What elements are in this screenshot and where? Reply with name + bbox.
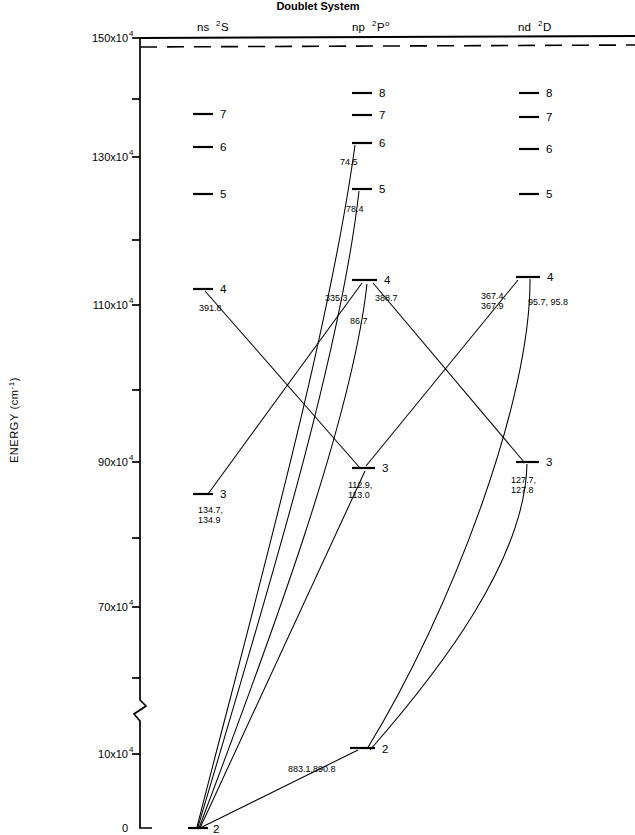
transition-line-np4-ns3 — [208, 283, 362, 494]
wavelength-label-np4-a: 335.3 — [325, 293, 348, 303]
level-ns-7[interactable]: 7 — [193, 108, 226, 120]
y-axis-title-tail: ) — [8, 377, 20, 381]
y-tick-exponent: 4 — [129, 148, 134, 157]
level-n-label: 6 — [546, 143, 552, 155]
level-nd-6[interactable]: 6 — [519, 143, 552, 155]
y-tick-exponent: 4 — [129, 598, 134, 607]
wavelength-label-np4-c: 388.7 — [375, 293, 398, 303]
y-axis-title: ENERGY (cm-1) — [7, 377, 20, 463]
level-ns-2[interactable]: 2 — [188, 823, 219, 835]
level-n-label: 5 — [220, 188, 226, 200]
level-np-2[interactable]: 2 883.1,890.8 — [288, 743, 388, 774]
level-n-label: 8 — [546, 87, 552, 99]
y-tick-text: 150x10 — [92, 32, 128, 44]
transition-line-nd3-np2 — [370, 464, 527, 750]
transition-line-np3-ns2 — [200, 471, 365, 828]
level-n-label: 6 — [379, 137, 385, 149]
column-header-np-term-sup: o — [385, 19, 390, 28]
y-axis-tick-label-130: 130x10 4 — [92, 148, 134, 163]
level-group-ns: 7 6 5 4 391.8 3 134.7, 134.9 — [188, 108, 227, 835]
level-n-label: 4 — [384, 274, 391, 286]
level-n-label: 4 — [547, 271, 554, 283]
wavelength-label-nd4-c: 95.7, 95.8 — [528, 297, 568, 307]
level-n-label: 3 — [546, 456, 552, 468]
wavelength-label-np2: 883.1,890.8 — [288, 764, 336, 774]
transition-line-nd4-np2 — [367, 279, 530, 749]
y-axis-tick-label-0: 0 — [122, 822, 128, 834]
column-header-ns-prefix: ns — [197, 21, 209, 33]
level-ns-4[interactable]: 4 391.8 — [193, 283, 227, 313]
level-n-label: 4 — [220, 283, 227, 295]
wavelength-label-np5: 78.4 — [346, 204, 364, 214]
column-header-ns: ns 2 S — [197, 19, 229, 33]
level-np-6[interactable]: 6 74.5 — [340, 137, 385, 167]
y-tick-text: 130x10 — [92, 151, 128, 163]
level-nd-4[interactable]: 4 367.4, 367.9 95.7, 95.8 — [481, 271, 568, 311]
level-np-5[interactable]: 5 78.4 — [346, 183, 385, 214]
level-ns-5[interactable]: 5 — [193, 188, 226, 200]
level-n-label: 7 — [220, 108, 226, 120]
y-axis-tick-label-10: 10x10 4 — [98, 745, 134, 760]
level-nd-3[interactable]: 3 127.7, 127.8 — [511, 456, 552, 495]
wavelength-label-ns3-a: 134.7, — [198, 505, 223, 515]
level-n-label: 6 — [220, 141, 226, 153]
transition-line-np4-ns2 — [199, 284, 367, 828]
wavelength-label-nd4-a: 367.4, — [481, 291, 506, 301]
wavelength-label-nd3-a: 127.7, — [511, 475, 536, 485]
level-ns-6[interactable]: 6 — [193, 141, 226, 153]
level-group-nd: 8 7 6 5 4 367.4, 367.9 95.7, 95.8 — [481, 87, 568, 495]
y-tick-text: 90x10 — [98, 456, 128, 468]
y-axis-tick-label-150: 150x10 4 — [92, 29, 134, 44]
level-np-7[interactable]: 7 — [352, 109, 385, 121]
level-n-label: 3 — [382, 462, 388, 474]
wavelength-label-np3-b: 113.0 — [348, 490, 370, 500]
level-n-label: 3 — [220, 488, 226, 500]
transition-line-np2-ns2 — [198, 750, 358, 829]
y-axis-tick-label-110: 110x10 4 — [93, 296, 134, 311]
level-n-label: 2 — [382, 743, 388, 755]
column-header-nd-term: D — [543, 21, 551, 33]
ionization-limit-solid-line — [140, 36, 635, 38]
y-tick-exponent: 4 — [129, 745, 134, 754]
level-n-label: 2 — [213, 823, 219, 835]
grotrian-diagram-canvas: Doublet System ns 2 S np 2 P o nd 2 D — [0, 0, 635, 835]
column-header-np-term: P — [377, 21, 385, 33]
level-n-label: 5 — [379, 183, 385, 195]
y-tick-exponent: 4 — [129, 296, 134, 305]
level-ns-3[interactable]: 3 134.7, 134.9 — [193, 488, 226, 525]
column-headers: ns 2 S np 2 P o nd 2 D — [197, 19, 551, 33]
y-tick-text: 110x10 — [93, 299, 128, 311]
level-np-8[interactable]: 8 — [352, 87, 385, 99]
svg-text:ENERGY (cm-1): ENERGY (cm-1) — [7, 377, 20, 463]
column-header-nd-prefix: nd — [518, 21, 531, 33]
level-n-label: 5 — [546, 188, 552, 200]
ionization-limit-dashed-line — [140, 45, 635, 47]
column-header-np: np 2 P o — [352, 19, 390, 33]
y-axis-tick-label-70: 70x10 4 — [98, 598, 134, 613]
y-axis-title-exponent: -1 — [7, 381, 16, 389]
y-axis-title-main: ENERGY (cm — [8, 389, 20, 463]
y-axis: 150x10 4 130x10 4 110x10 4 90x10 4 70x10… — [7, 29, 152, 834]
energy-level-diagram: Doublet System ns 2 S np 2 P o nd 2 D — [0, 0, 635, 835]
column-header-ns-term: S — [221, 21, 229, 33]
wavelength-label-ns3-b: 134.9 — [198, 515, 221, 525]
level-nd-7[interactable]: 7 — [519, 111, 552, 123]
level-n-label: 7 — [379, 109, 385, 121]
wavelength-label-ns4: 391.8 — [199, 303, 222, 313]
transition-line-np6-ns2 — [197, 145, 355, 827]
level-np-3[interactable]: 3 112.9, 113.0 — [348, 462, 388, 500]
wavelength-label-np6: 74.5 — [340, 157, 358, 167]
wavelength-label-np3-a: 112.9, — [348, 480, 372, 490]
level-nd-8[interactable]: 8 — [519, 87, 552, 99]
y-tick-exponent: 4 — [129, 29, 134, 38]
column-header-np-prefix: np — [352, 21, 365, 33]
wavelength-label-nd3-b: 127.8 — [511, 485, 534, 495]
y-tick-exponent: 4 — [129, 453, 134, 462]
level-n-label: 7 — [546, 111, 552, 123]
y-axis-tick-label-90: 90x10 4 — [98, 453, 134, 468]
wavelength-label-nd4-b: 367.9 — [481, 301, 504, 311]
column-header-nd: nd 2 D — [518, 19, 551, 33]
level-group-np: 8 7 6 74.5 5 78.4 4 335.3 86.7 388.7 — [288, 87, 398, 774]
level-nd-5[interactable]: 5 — [519, 188, 552, 200]
wavelength-label-np4-b: 86.7 — [350, 316, 368, 326]
